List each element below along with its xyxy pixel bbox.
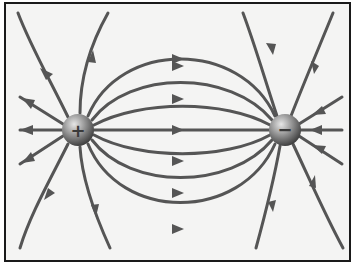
positive-sign: + bbox=[70, 120, 85, 141]
dipole-field-diagram: + − bbox=[0, 0, 352, 263]
negative-sign: − bbox=[277, 119, 292, 140]
negative-charge: − bbox=[269, 114, 301, 146]
positive-charge: + bbox=[62, 114, 94, 146]
connecting-arrowheads bbox=[172, 54, 184, 234]
